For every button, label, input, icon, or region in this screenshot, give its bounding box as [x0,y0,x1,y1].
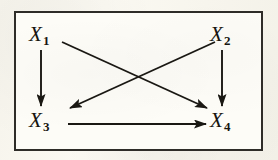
node-x2: X2 [210,24,230,45]
node-x3-variable: X [29,108,42,132]
node-x3-subscript: 3 [43,119,50,134]
dag-figure: X1 X2 X3 X4 [0,0,278,160]
node-x1: X1 [29,24,49,45]
node-x2-subscript: 2 [224,33,231,48]
node-x4-subscript: 4 [224,119,231,134]
node-x1-variable: X [29,22,42,46]
node-x4: X4 [210,110,230,131]
node-x4-variable: X [210,108,223,132]
node-x3: X3 [29,110,49,131]
node-x2-variable: X [210,22,223,46]
node-x1-subscript: 1 [43,33,50,48]
